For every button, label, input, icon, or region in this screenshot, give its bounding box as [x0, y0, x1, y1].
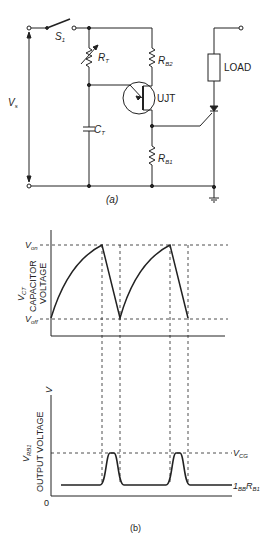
- switch-icon: [47, 19, 70, 28]
- output-y-label: OUTPUT VOLTAGE: [35, 411, 45, 492]
- ujt-label: UJT: [157, 93, 175, 104]
- v-on-label: Von: [25, 240, 38, 251]
- svg-text:VRB1: VRB1: [21, 444, 32, 462]
- switch-contact: [72, 26, 76, 30]
- switch-label: S1: [55, 31, 65, 43]
- output-axis-top-label: V: [44, 386, 54, 393]
- svg-text:VCT: VCT: [16, 286, 27, 301]
- capacitor-waveform: [51, 245, 188, 318]
- timing-capacitor-label: CT: [94, 124, 106, 136]
- v-off-label: Voff: [25, 314, 39, 325]
- output-waveform: [61, 453, 232, 485]
- caption-b: (b): [130, 523, 141, 533]
- base1-resistor-label: RB1: [158, 153, 173, 165]
- base1-resistor-icon: [149, 146, 155, 165]
- supply-label: Vs: [8, 97, 18, 109]
- load-terminal: [239, 26, 243, 30]
- circuit-schematic: S1 Vs RT CT RB2 RB1 UJT LOAD (a): [8, 19, 251, 205]
- load-icon: [208, 54, 220, 81]
- caption-a: (a): [106, 194, 118, 205]
- output-voltage-chart: VCG 1BBRB1 0 V OUTPUT VOLTAGE VRB1 (b): [21, 386, 260, 533]
- svg-text:OUTPUT VOLTAGE: OUTPUT VOLTAGE: [35, 411, 45, 492]
- supply-terminal-bottom: [27, 184, 31, 188]
- base2-resistor-label: RB2: [158, 55, 173, 67]
- capacitor-voltage-chart: Von Voff CAPACITOR VOLTAGE VCT: [16, 230, 228, 485]
- supply-terminal-top: [27, 26, 31, 30]
- base2-resistor-icon: [149, 48, 155, 67]
- v-cg-label: VCG: [233, 448, 248, 459]
- svg-text:CAPACITOR: CAPACITOR: [28, 260, 38, 312]
- timing-resistor-label: RT: [98, 52, 110, 64]
- svg-text:VOLTAGE: VOLTAGE: [38, 263, 48, 304]
- ujt-diagram: S1 Vs RT CT RB2 RB1 UJT LOAD (a) Von Vof…: [0, 0, 278, 547]
- output-symbol: VRB1: [21, 444, 32, 462]
- origin-label: 0: [44, 498, 49, 508]
- capacitor-symbol: VCT: [16, 286, 27, 301]
- scr-icon: [210, 106, 218, 111]
- svg-text:V: V: [44, 386, 54, 393]
- capacitor-y-label: CAPACITOR VOLTAGE: [28, 260, 48, 312]
- load-label: LOAD: [224, 62, 251, 73]
- baseline-label: 1BBRB1: [233, 481, 260, 492]
